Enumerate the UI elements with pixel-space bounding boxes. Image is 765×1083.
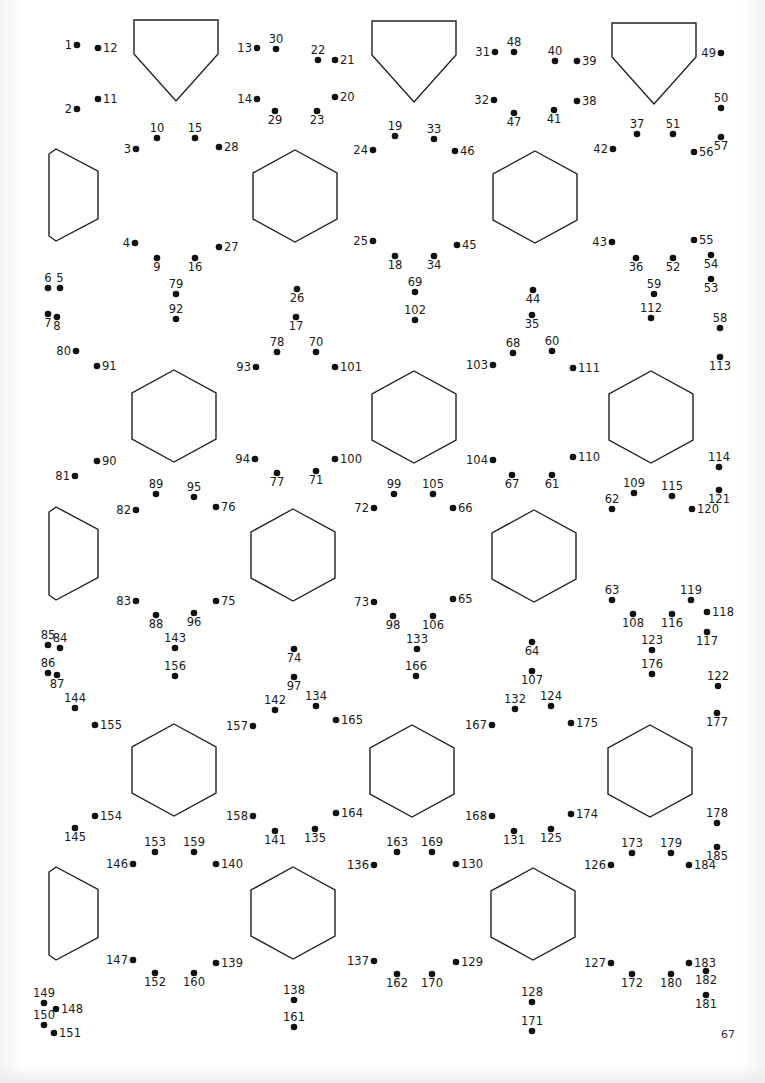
numbered-dot: 81 — [55, 469, 78, 483]
dot-number-label: 144 — [64, 691, 86, 705]
dot-number-label: 150 — [33, 1008, 55, 1022]
dot-marker — [133, 507, 140, 514]
numbered-dot: 40 — [548, 44, 563, 64]
dot-marker — [489, 722, 496, 729]
numbered-dot: 29 — [268, 108, 283, 127]
numbered-dot: 34 — [427, 253, 442, 272]
dot-number-label: 167 — [465, 718, 487, 732]
numbered-dot: 109 — [623, 476, 645, 496]
dot-number-label: 24 — [353, 143, 368, 157]
dot-marker — [313, 349, 320, 356]
numbered-dot: 65 — [450, 592, 473, 606]
dot-marker — [608, 960, 615, 967]
dot-number-label: 130 — [461, 857, 483, 871]
dot-number-label: 149 — [33, 986, 55, 1000]
dot-number-label: 116 — [661, 616, 683, 630]
dot-number-label: 174 — [576, 807, 598, 821]
numbered-dot: 80 — [56, 344, 79, 358]
numbered-dot: 142 — [264, 693, 286, 713]
dot-number-label: 175 — [576, 716, 598, 730]
numbered-dot: 27 — [216, 240, 239, 254]
numbered-dot: 73 — [354, 595, 377, 609]
dot-number-label: 34 — [427, 258, 442, 272]
dot-marker — [192, 135, 199, 142]
numbered-dot: 177 — [706, 710, 728, 729]
dot-marker — [512, 706, 519, 713]
dot-marker — [691, 149, 698, 156]
dot-marker — [570, 454, 577, 461]
numbered-dot: 119 — [680, 583, 702, 603]
numbered-dot: 61 — [545, 472, 560, 491]
numbered-dot: 91 — [94, 359, 117, 373]
dot-number-label: 54 — [704, 257, 719, 271]
numbered-dot: 169 — [421, 835, 443, 855]
dot-number-label: 185 — [706, 849, 728, 863]
numbered-dot: 158 — [226, 809, 256, 823]
numbered-dot: 105 — [422, 477, 444, 497]
numbered-dot: 92 — [169, 302, 184, 322]
outline-shapes — [49, 20, 696, 960]
dot-number-label: 19 — [388, 119, 403, 133]
dot-marker — [154, 135, 161, 142]
numbered-dot: 1 — [65, 38, 81, 52]
dot-number-label: 87 — [50, 677, 65, 691]
dot-number-label: 179 — [660, 836, 682, 850]
dot-number-label: 128 — [521, 985, 543, 999]
dot-marker — [609, 506, 616, 513]
numbered-dot: 111 — [570, 361, 600, 375]
numbered-dot: 160 — [183, 970, 205, 989]
numbered-dot: 125 — [540, 826, 562, 845]
dot-marker — [649, 647, 656, 654]
dot-marker — [41, 1000, 48, 1007]
dot-number-label: 95 — [187, 480, 202, 494]
dot-number-label: 15 — [188, 121, 203, 135]
dot-number-label: 71 — [309, 473, 324, 487]
dot-marker — [454, 242, 461, 249]
numbered-dot: 35 — [525, 312, 540, 331]
dot-number-label: 57 — [714, 139, 729, 153]
dot-number-label: 20 — [340, 90, 355, 104]
numbered-dot: 86 — [41, 656, 56, 676]
dot-number-label: 165 — [341, 713, 363, 727]
numbered-dot: 59 — [647, 277, 662, 297]
numbered-dot: 24 — [353, 143, 376, 157]
dot-number-label: 158 — [226, 809, 248, 823]
numbered-dot: 79 — [169, 277, 184, 297]
hexagon-outline — [492, 510, 576, 602]
dot-number-label: 30 — [269, 32, 284, 46]
numbered-dot: 90 — [94, 454, 117, 468]
dot-number-label: 88 — [149, 617, 164, 631]
dot-number-label: 78 — [270, 335, 285, 349]
dot-marker — [391, 491, 398, 498]
dot-marker — [689, 506, 696, 513]
dot-number-label: 3 — [124, 142, 131, 156]
dot-marker — [548, 703, 555, 710]
dot-number-label: 160 — [183, 975, 205, 989]
dot-number-label: 170 — [421, 976, 443, 990]
dot-marker — [412, 317, 419, 324]
numbered-dot: 140 — [213, 857, 243, 871]
numbered-dot: 75 — [213, 594, 236, 608]
dot-number-label: 43 — [592, 235, 607, 249]
numbered-dot: 99 — [387, 477, 402, 497]
numbered-dot: 136 — [347, 858, 377, 872]
dot-marker — [92, 813, 99, 820]
numbered-dot: 62 — [605, 492, 620, 512]
dot-marker — [489, 813, 496, 820]
numbered-dot: 133 — [406, 632, 428, 652]
dot-marker — [574, 58, 581, 65]
dot-marker — [332, 456, 339, 463]
hexagon-outline — [493, 151, 577, 243]
numbered-dot: 42 — [593, 142, 616, 156]
numbered-dot: 98 — [386, 613, 401, 632]
dot-number-label: 132 — [504, 692, 526, 706]
dot-marker — [213, 960, 220, 967]
dot-number-label: 65 — [458, 592, 473, 606]
dot-number-label: 45 — [462, 238, 477, 252]
pentagon-outline — [612, 23, 696, 104]
dot-number-label: 164 — [341, 806, 363, 820]
dot-number-label: 124 — [540, 689, 562, 703]
numbered-dot: 144 — [64, 691, 86, 711]
dot-marker — [608, 862, 615, 869]
numbered-dot: 68 — [506, 336, 521, 356]
